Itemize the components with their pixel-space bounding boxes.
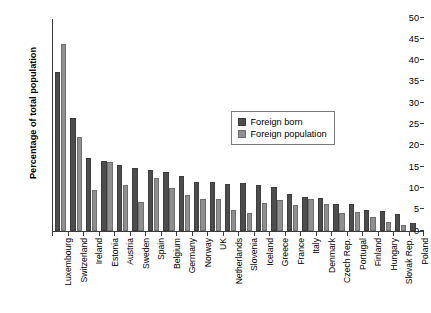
x-axis-tick (285, 232, 301, 237)
x-axis-labels: LuxembourgSwitzerlandIrelandEstoniaAustr… (52, 238, 424, 312)
bar-born (364, 210, 369, 231)
x-axis-tick-mark (99, 232, 100, 236)
bar-pop (308, 199, 313, 231)
x-axis-tick-mark (393, 232, 394, 236)
bar-group (84, 19, 99, 231)
bar-group (362, 19, 377, 231)
legend-item-foreign-born: Foreign born (238, 116, 327, 128)
x-axis-label-cell: Netherlands (223, 238, 239, 312)
x-axis-tick (393, 232, 409, 237)
x-axis-tick-mark (254, 232, 255, 236)
bar-group (99, 19, 114, 231)
bar-born (395, 214, 400, 231)
bar-pop (61, 44, 66, 231)
bar-group (408, 19, 423, 231)
x-axis-tick-mark (347, 232, 348, 236)
x-axis-label-cell: Austria (114, 238, 130, 312)
bar-pop (277, 200, 282, 231)
bar-pop (138, 202, 143, 231)
x-axis-tick-mark (68, 232, 69, 236)
x-axis-tick-mark (362, 232, 363, 236)
x-axis-label-cell: Sweden (130, 238, 146, 312)
x-axis-tick-mark (114, 232, 115, 236)
bar-group (208, 19, 223, 231)
bar-group (115, 19, 130, 231)
bar-pop (293, 205, 298, 231)
legend-item-foreign-population: Foreign population (238, 128, 327, 140)
bar-pop (324, 204, 329, 231)
bar-group (393, 19, 408, 231)
chart-legend: Foreign born Foreign population (231, 111, 335, 145)
x-axis-label-cell: Czech Rep. (331, 238, 347, 312)
bar-pop (386, 222, 391, 231)
bar-group (130, 19, 145, 231)
bar-pop (154, 178, 159, 231)
bar-born (287, 194, 292, 231)
x-axis-tick-mark (238, 232, 239, 236)
bar-pop (339, 213, 344, 231)
x-axis-tick (269, 232, 285, 237)
x-axis-tick (99, 232, 115, 237)
x-axis-label-cell: Germany (176, 238, 192, 312)
x-tick-mark-end (423, 232, 424, 236)
y-axis-tick-mark (420, 17, 424, 18)
legend-swatch-icon-foreign-born (238, 118, 246, 126)
x-axis-tick (145, 232, 161, 237)
x-axis-label-cell: Switzerland (68, 238, 84, 312)
x-axis-label-cell: Estonia (99, 238, 115, 312)
bar-born (101, 161, 106, 231)
x-axis-tick-mark (207, 232, 208, 236)
x-axis-tick (331, 232, 347, 237)
bar-pop (107, 162, 112, 231)
bar-born (333, 204, 338, 231)
bar-born (210, 182, 215, 231)
x-axis-label-cell: Denmark (316, 238, 332, 312)
x-axis-label-cell: Portugal (347, 238, 363, 312)
x-axis-tick-mark (285, 232, 286, 236)
bar-born (70, 118, 75, 231)
x-axis-label-cell: Luxembourg (52, 238, 68, 312)
bar-pop (247, 213, 252, 231)
bar-pop (231, 210, 236, 231)
legend-swatch-icon-foreign-population (238, 130, 246, 138)
x-axis-tick (83, 232, 99, 237)
x-axis-tick-mark (176, 232, 177, 236)
bar-group (68, 19, 83, 231)
legend-label-foreign-population: Foreign population (251, 129, 327, 139)
bar-born (163, 172, 168, 231)
x-axis-tick (316, 232, 332, 237)
x-axis-tick-mark (192, 232, 193, 236)
y-axis-title: Percentage of total population (28, 18, 38, 208)
bar-born (380, 211, 385, 231)
x-axis-label-cell: Belgium (161, 238, 177, 312)
x-axis-tick (362, 232, 378, 237)
x-axis-tick-mark (145, 232, 146, 236)
x-axis-tick-mark (316, 232, 317, 236)
bar-group (347, 19, 362, 231)
x-axis-tick (378, 232, 394, 237)
bar-born (271, 187, 276, 231)
bar-born (225, 184, 230, 231)
x-axis-label-cell: UK (207, 238, 223, 312)
x-axis-label-cell: Slovenia (238, 238, 254, 312)
x-axis-label-cell: Poland (409, 238, 425, 312)
bar-born (86, 158, 91, 231)
x-axis-label-cell: Norway (192, 238, 208, 312)
x-axis-label-cell: Hungary (378, 238, 394, 312)
x-axis-tick-mark (52, 232, 53, 236)
x-axis-tick (176, 232, 192, 237)
x-axis-tick (68, 232, 84, 237)
x-axis-tick-mark (269, 232, 270, 236)
bar-pop (355, 212, 360, 231)
x-axis-label-cell: France (285, 238, 301, 312)
bar-born (256, 185, 261, 231)
bar-pop (200, 199, 205, 231)
x-axis-tick-mark (300, 232, 301, 236)
x-axis-tick (254, 232, 270, 237)
bar-born (318, 198, 323, 231)
y-axis-tick: 50 (372, 17, 424, 18)
bar-pop (185, 195, 190, 231)
x-axis-tick (161, 232, 177, 237)
bar-pop (262, 203, 267, 231)
bar-pop (401, 225, 406, 231)
